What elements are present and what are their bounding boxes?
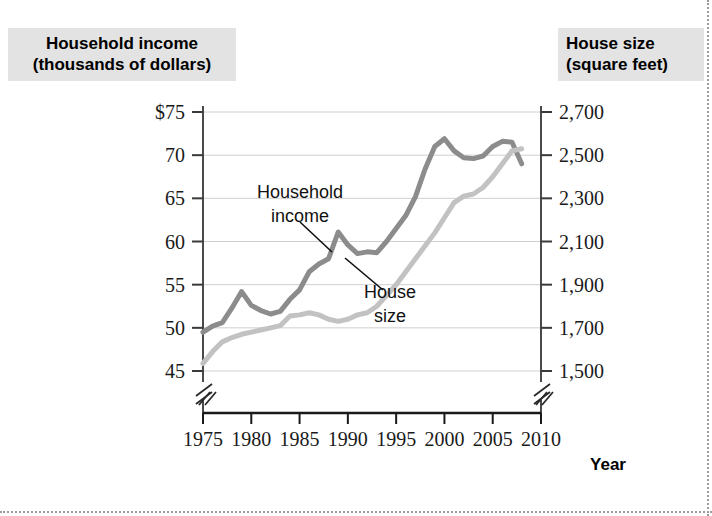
- x-tick-label: 2010: [521, 428, 561, 450]
- right-tick-label: 1,500: [559, 360, 604, 382]
- house-size-label-line1: House: [364, 282, 416, 302]
- left-tick-label: $75: [155, 101, 185, 123]
- right-tick-label: 1,900: [559, 274, 604, 296]
- right-tick-label: 2,300: [559, 187, 604, 209]
- x-tick-label: 1995: [376, 428, 416, 450]
- x-tick-label: 2005: [473, 428, 513, 450]
- household-income-label-line1: Household: [257, 182, 343, 202]
- household-income-label-line2: income: [271, 206, 329, 226]
- series-line-household-income: [203, 139, 522, 332]
- x-axis-break-left: [199, 392, 216, 405]
- series-line-house-size: [203, 149, 522, 364]
- left-tick-label: 55: [165, 274, 185, 296]
- x-tick-label: 1985: [280, 428, 320, 450]
- left-tick-label: 45: [165, 360, 185, 382]
- right-tick-label: 1,700: [559, 317, 604, 339]
- line-chart-canvas: 455055606570$75 1,5001,7001,9002,1002,30…: [0, 0, 712, 516]
- chart-figure: Household income (thousands of dollars) …: [0, 0, 712, 516]
- x-axis-name: Year: [590, 455, 626, 474]
- left-tick-label: 50: [165, 317, 185, 339]
- house-size-label-line2: size: [374, 306, 406, 326]
- x-axis-break-right: [536, 392, 553, 405]
- x-axis: 19751980198519901995200020052010: [183, 392, 561, 450]
- right-tick-label: 2,100: [559, 231, 604, 253]
- inline-annotations: HouseholdincomeHousesize: [257, 182, 416, 326]
- x-tick-label: 1980: [231, 428, 271, 450]
- x-tick-label: 2000: [424, 428, 464, 450]
- left-tick-label: 70: [165, 144, 185, 166]
- household-income-leader-line: [300, 222, 332, 252]
- left-tick-label: 60: [165, 231, 185, 253]
- left-axis: 455055606570$75: [155, 101, 212, 413]
- right-tick-label: 2,500: [559, 144, 604, 166]
- left-tick-label: 65: [165, 187, 185, 209]
- right-axis: 1,5001,7001,9002,1002,3002,5002,700: [534, 101, 604, 413]
- right-tick-label: 2,700: [559, 101, 604, 123]
- x-tick-label: 1990: [328, 428, 368, 450]
- data-series: [203, 139, 522, 364]
- x-tick-label: 1975: [183, 428, 223, 450]
